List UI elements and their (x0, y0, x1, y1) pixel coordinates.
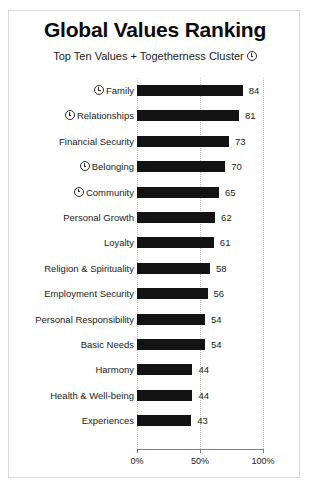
bar-row-label: Personal Growth (63, 211, 134, 224)
bar-row-label: Basic Needs (81, 338, 134, 351)
bar-row: Family84 (0, 84, 310, 97)
bar-row: Employment Security56 (0, 287, 310, 300)
togetherness-cluster-icon (80, 161, 90, 171)
bar-row-label-text: Belonging (92, 161, 134, 172)
bar-row-label: Harmony (95, 363, 134, 376)
togetherness-cluster-icon (65, 110, 75, 120)
bar-row-label-text: Loyalty (104, 237, 134, 248)
bar-row-label: Financial Security (59, 135, 134, 148)
bar-value-label: 81 (245, 109, 256, 122)
bar-row-label-text: Health & Well-being (50, 390, 134, 401)
bar (137, 288, 208, 299)
bar (137, 415, 191, 426)
togetherness-cluster-icon (94, 85, 104, 95)
bar-row-label-text: Personal Growth (63, 212, 134, 223)
bar-row-label: Relationships (65, 109, 134, 122)
bar-value-label: 43 (197, 414, 208, 427)
bar-row: Loyalty61 (0, 236, 310, 249)
bar-value-label: 65 (225, 186, 236, 199)
bar (137, 110, 239, 121)
bar-row: Community65 (0, 186, 310, 199)
bar-row: Harmony44 (0, 363, 310, 376)
bar (137, 314, 205, 325)
bar (137, 85, 243, 96)
bar-value-label: 58 (216, 262, 227, 275)
bar-row-label-text: Personal Responsibility (35, 314, 134, 325)
x-axis-tick (200, 449, 201, 453)
bar (137, 339, 205, 350)
bar-value-label: 56 (214, 287, 225, 300)
bar-row: Relationships81 (0, 109, 310, 122)
bar (137, 161, 225, 172)
bar (137, 237, 214, 248)
chart-subtitle: Top Ten Values + Togetherness Cluster (0, 50, 310, 62)
bar-row-label-text: Harmony (95, 364, 134, 375)
bar-row: Financial Security73 (0, 135, 310, 148)
bar-row-label: Health & Well-being (50, 389, 134, 402)
chart-figure: Global Values Ranking Top Ten Values + T… (0, 0, 310, 488)
x-axis-tick (263, 449, 264, 453)
bar-row: Health & Well-being44 (0, 389, 310, 402)
x-axis-tick-label: 50% (180, 456, 220, 466)
bar-value-label: 62 (221, 211, 232, 224)
bar-row-label: Experiences (82, 414, 134, 427)
bar-row-label-text: Religion & Spirituality (44, 263, 134, 274)
x-axis-tick (137, 449, 138, 453)
bar-value-label: 54 (211, 338, 222, 351)
bar (137, 136, 229, 147)
bar-row-label-text: Community (86, 187, 134, 198)
bar-value-label: 44 (198, 389, 209, 402)
bar-row-label-text: Experiences (82, 415, 134, 426)
bar-row: Religion & Spirituality58 (0, 262, 310, 275)
bar-row-label-text: Basic Needs (81, 339, 134, 350)
bar-row-label-text: Employment Security (44, 288, 134, 299)
bar-value-label: 70 (231, 160, 242, 173)
bar-value-label: 84 (249, 84, 260, 97)
bar-row-label: Loyalty (104, 236, 134, 249)
bar-row: Personal Responsibility54 (0, 313, 310, 326)
bar-row: Belonging70 (0, 160, 310, 173)
bar-row: Personal Growth62 (0, 211, 310, 224)
bar-value-label: 73 (235, 135, 246, 148)
bar-row-label: Family (94, 84, 134, 97)
bar-value-label: 54 (211, 313, 222, 326)
bar-row: Basic Needs54 (0, 338, 310, 351)
bar (137, 390, 192, 401)
bar-row-label-text: Financial Security (59, 136, 134, 147)
x-axis-tick-label: 100% (243, 456, 283, 466)
bar-value-label: 61 (220, 236, 231, 249)
chart-title: Global Values Ranking (0, 18, 310, 42)
bar-row-label-text: Relationships (77, 110, 134, 121)
bar-row-label: Community (74, 186, 134, 199)
bar-row-label: Employment Security (44, 287, 134, 300)
bar (137, 212, 215, 223)
bar (137, 263, 210, 274)
bar (137, 187, 219, 198)
bar-row-label: Religion & Spirituality (44, 262, 134, 275)
bar-row-label: Personal Responsibility (35, 313, 134, 326)
bar-row-label: Belonging (80, 160, 134, 173)
chart-subtitle-text: Top Ten Values + Togetherness Cluster (53, 50, 243, 62)
bar-row-label-text: Family (106, 85, 134, 96)
togetherness-cluster-icon (74, 187, 84, 197)
bar (137, 364, 192, 375)
togetherness-cluster-icon (247, 51, 257, 61)
bar-row: Experiences43 (0, 414, 310, 427)
bar-value-label: 44 (198, 363, 209, 376)
x-axis-tick-label: 0% (117, 456, 157, 466)
